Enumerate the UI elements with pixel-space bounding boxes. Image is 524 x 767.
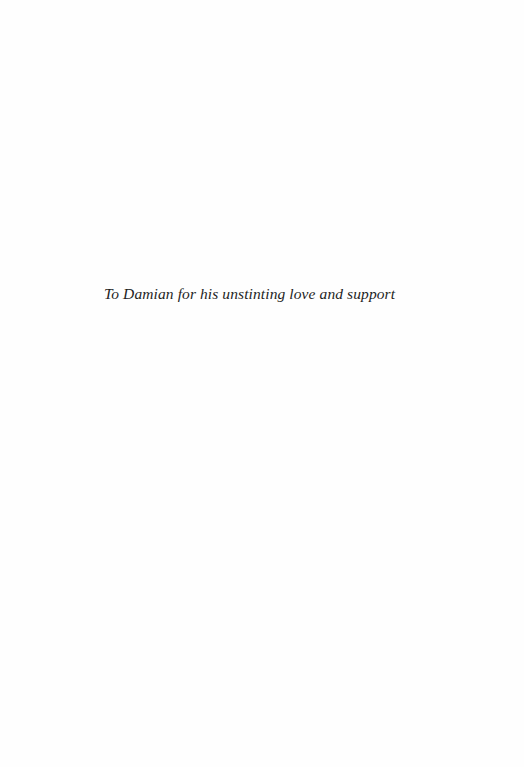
book-page: To Damian for his unstinting love and su…: [0, 0, 524, 767]
dedication-text: To Damian for his unstinting love and su…: [104, 284, 395, 304]
